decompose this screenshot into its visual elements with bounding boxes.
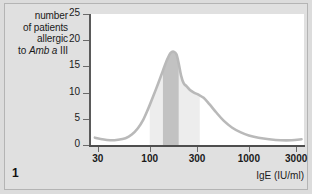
y-tick-mark — [83, 14, 89, 15]
y-axis-title-to: to — [18, 45, 29, 56]
x-tick-mark — [197, 147, 198, 152]
y-axis-title-line-4: to Amb a III — [2, 45, 68, 57]
y-tick-label: 25 — [60, 7, 80, 18]
y-axis-title-line-1: number — [2, 10, 68, 22]
y-tick-mark — [83, 40, 89, 41]
x-tick-mark — [150, 147, 151, 152]
y-tick-label: 15 — [60, 59, 80, 70]
y-tick-mark — [83, 119, 89, 120]
y-tick-mark — [83, 66, 89, 67]
y-axis-line — [89, 14, 91, 146]
x-tick-mark — [249, 147, 250, 152]
x-tick-label: 100 — [130, 153, 170, 164]
distribution-plot — [90, 14, 304, 145]
y-tick-label: 5 — [60, 112, 80, 123]
x-tick-label: 1000 — [229, 153, 269, 164]
y-axis-title-line-3: allergic — [2, 33, 68, 45]
y-axis-title: number of patients allergic to Amb a III — [2, 10, 68, 56]
x-tick-mark — [296, 147, 297, 152]
y-tick-label: 10 — [60, 86, 80, 97]
dark-shaded-range — [163, 14, 179, 145]
x-tick-label: 3000 — [276, 153, 312, 164]
x-axis-title: IgE (IU/ml) — [256, 170, 304, 181]
y-tick-mark — [83, 93, 89, 94]
y-tick-mark — [83, 145, 89, 146]
x-tick-mark — [98, 147, 99, 152]
figure-number-label: 1 — [12, 166, 19, 180]
y-tick-label: 0 — [60, 138, 80, 149]
allergen-isoform: III — [57, 45, 68, 56]
figure-container: number of patients allergic to Amb a III — [0, 0, 312, 194]
x-tick-label: 30 — [78, 153, 118, 164]
x-tick-label: 300 — [177, 153, 217, 164]
allergen-name-italic: Amb a — [29, 45, 57, 56]
plot-panel — [90, 14, 304, 145]
y-axis-title-line-2: of patients — [2, 22, 68, 34]
y-tick-label: 20 — [60, 33, 80, 44]
